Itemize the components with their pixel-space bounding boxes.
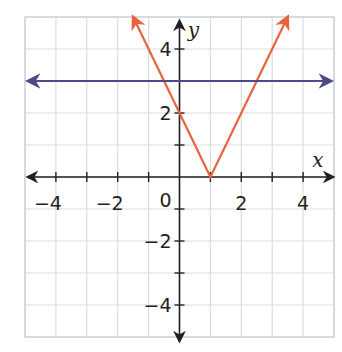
- origin-label: 0: [159, 189, 171, 211]
- x-axis-label: x: [312, 148, 323, 172]
- y-axis-label: y: [187, 18, 200, 42]
- y-tick-label: 2: [159, 102, 171, 124]
- y-tick-label: −4: [143, 294, 171, 316]
- x-tick-label: −2: [96, 192, 124, 214]
- x-tick-label: −4: [34, 192, 62, 214]
- coordinate-plane: −4−22442−2−40xy: [0, 0, 342, 352]
- x-tick-label: 2: [235, 192, 247, 214]
- x-tick-label: 4: [297, 192, 309, 214]
- y-tick-label: −2: [143, 230, 171, 252]
- y-tick-label: 4: [159, 38, 171, 60]
- axes: [28, 21, 333, 341]
